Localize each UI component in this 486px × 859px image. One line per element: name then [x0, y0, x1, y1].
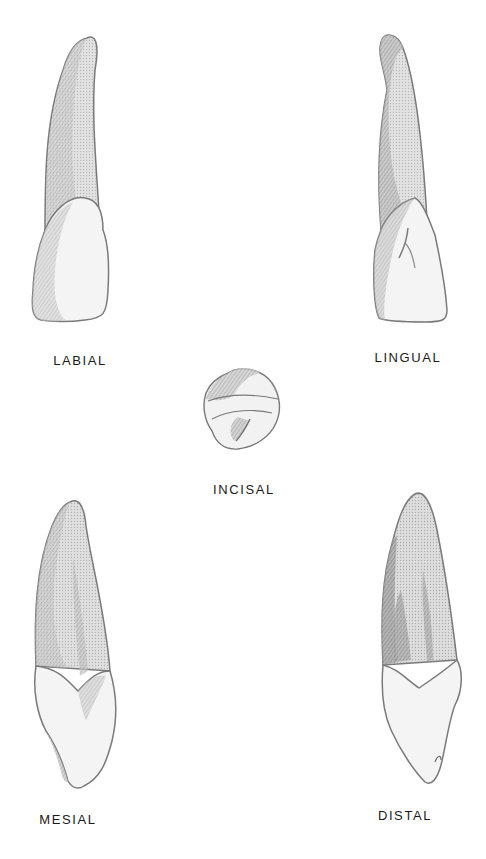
- lingual-view-illustration: [365, 30, 465, 330]
- incisal-view-illustration: [200, 365, 290, 455]
- distal-tooth-drawing: [375, 490, 475, 790]
- distal-view-illustration: [375, 490, 475, 790]
- labial-label: LABIAL: [53, 353, 107, 368]
- incisal-tooth-drawing: [200, 365, 290, 455]
- labial-view-illustration: [25, 30, 125, 330]
- distal-label: DISTAL: [378, 808, 432, 823]
- mesial-tooth-drawing: [28, 496, 128, 796]
- labial-tooth-drawing: [25, 30, 125, 330]
- lingual-label: LINGUAL: [375, 350, 442, 365]
- mesial-label: MESIAL: [39, 812, 96, 827]
- mesial-view-illustration: [28, 496, 128, 796]
- incisal-label: INCISAL: [213, 482, 275, 497]
- tooth-views-diagram: LABIAL: [0, 0, 486, 859]
- lingual-tooth-drawing: [365, 30, 465, 330]
